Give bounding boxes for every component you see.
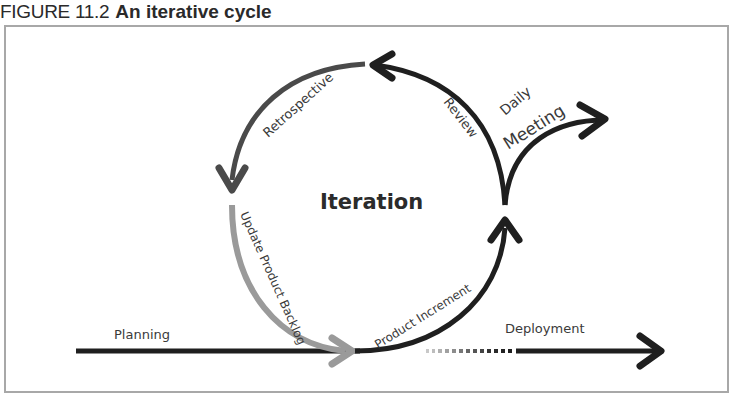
deployment-label: Deployment bbox=[505, 321, 585, 336]
planning-label: Planning bbox=[114, 327, 170, 342]
deployment-dashes bbox=[426, 349, 512, 353]
product-increment-arc bbox=[355, 228, 505, 351]
center-label: Iteration bbox=[320, 190, 423, 214]
review-arc bbox=[375, 65, 505, 205]
daily-label: Daily bbox=[497, 83, 534, 118]
retrospective-arc bbox=[232, 64, 365, 180]
iteration-cycle-diagram: Iteration Retrospective Review Daily Mee… bbox=[0, 0, 734, 398]
